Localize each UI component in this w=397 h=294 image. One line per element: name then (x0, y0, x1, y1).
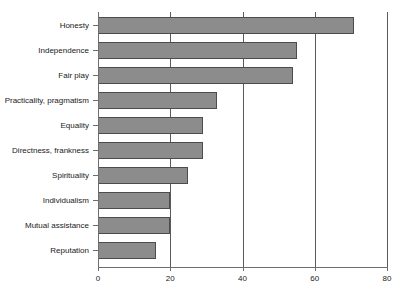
category-label-reputation: Reputation (50, 246, 89, 255)
bar-independence (98, 42, 297, 59)
x-tick-mark-40 (243, 267, 244, 271)
x-tick-label-0: 0 (96, 274, 100, 283)
bar-reputation (98, 242, 156, 259)
y-tick-honesty (93, 25, 98, 26)
gridline-80 (387, 12, 388, 267)
y-tick-practicality-pragmatism (93, 100, 98, 101)
x-tick-label-60: 60 (310, 274, 319, 283)
category-label-individualism: Individualism (43, 196, 89, 205)
category-label-mutual-assistance: Mutual assistance (25, 221, 89, 230)
bar-mutual-assistance (98, 217, 170, 234)
bar-equality (98, 117, 203, 134)
y-tick-directness-frankness (93, 150, 98, 151)
x-tick-mark-0 (98, 267, 99, 271)
bar-honesty (98, 17, 354, 34)
gridline-60 (315, 12, 316, 267)
y-tick-fair-play (93, 75, 98, 76)
y-tick-spirituality (93, 175, 98, 176)
x-tick-mark-60 (315, 267, 316, 271)
category-label-directness-frankness: Directness, frankness (12, 146, 89, 155)
bar-fair-play (98, 67, 293, 84)
bar-chart: Honesty Independence Fair play Practical… (0, 0, 397, 294)
x-tick-label-40: 40 (238, 274, 247, 283)
x-tick-mark-80 (387, 267, 388, 271)
x-tick-label-80: 80 (383, 274, 392, 283)
bar-individualism (98, 192, 170, 209)
y-tick-mutual-assistance (93, 225, 98, 226)
category-label-fair-play: Fair play (58, 71, 89, 80)
bar-directness-frankness (98, 142, 203, 159)
x-tick-mark-20 (170, 267, 171, 271)
category-label-independence: Independence (38, 46, 89, 55)
y-tick-equality (93, 125, 98, 126)
y-tick-independence (93, 50, 98, 51)
x-tick-label-20: 20 (166, 274, 175, 283)
category-label-equality: Equality (61, 121, 89, 130)
plot-area (98, 12, 387, 267)
y-tick-individualism (93, 200, 98, 201)
category-label-spirituality: Spirituality (52, 171, 89, 180)
bar-practicality-pragmatism (98, 92, 217, 109)
category-label-honesty: Honesty (60, 21, 89, 30)
bar-spirituality (98, 167, 188, 184)
y-axis-line (98, 12, 99, 268)
category-label-practicality-pragmatism: Practicality, pragmatism (5, 96, 89, 105)
y-tick-reputation (93, 250, 98, 251)
